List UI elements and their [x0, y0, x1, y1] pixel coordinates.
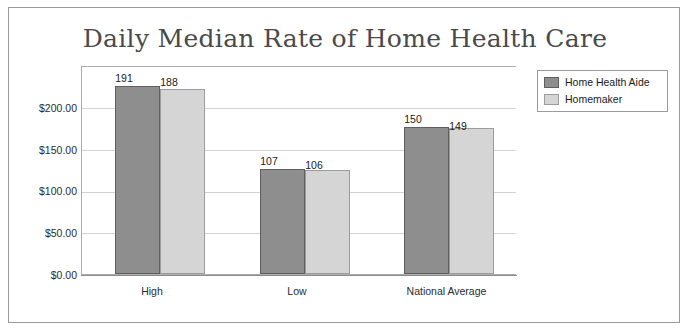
legend-swatch-icon [544, 94, 559, 105]
x-tick-label-high: High [112, 285, 192, 297]
y-tick-label: $200.00 [11, 102, 77, 114]
bar-value-label: 150 [391, 113, 435, 125]
legend-item-homemaker: Homemaker [544, 93, 661, 105]
legend-item-home-health-aide: Home Health Aide [544, 76, 661, 88]
y-tick-label: $150.00 [11, 144, 77, 156]
bar-value-label: 188 [147, 76, 191, 88]
bar-value-label: 106 [292, 159, 336, 171]
chart-legend: Home Health Aide Homemaker [537, 70, 668, 112]
chart-container: Daily Median Rate of Home Health Care $2… [8, 7, 680, 323]
bar-high-homemaker [160, 89, 205, 274]
bar-low-homemaker [305, 170, 350, 274]
x-tick-label-low: Low [257, 285, 337, 297]
y-tick-label: $50.00 [11, 227, 77, 239]
bar-low-home-health-aide [260, 169, 305, 274]
y-tick-label: $0.00 [11, 269, 77, 281]
x-axis-line [81, 275, 517, 276]
y-axis: $200.00 $150.00 $100.00 $50.00 $0.00 [9, 8, 77, 322]
bar-value-label: 107 [247, 155, 291, 167]
x-tick-label-national-average: National Average [374, 285, 519, 297]
bar-value-label: 149 [436, 120, 480, 132]
legend-label: Homemaker [565, 93, 622, 105]
bar-high-home-health-aide [115, 86, 160, 274]
y-tick-label: $100.00 [11, 185, 77, 197]
bar-value-label: 191 [102, 72, 146, 84]
legend-swatch-icon [544, 77, 559, 88]
bar-national-average-homemaker [449, 128, 494, 274]
bar-national-average-home-health-aide [404, 127, 449, 274]
chart-title: Daily Median Rate of Home Health Care [9, 24, 681, 53]
legend-label: Home Health Aide [565, 76, 650, 88]
